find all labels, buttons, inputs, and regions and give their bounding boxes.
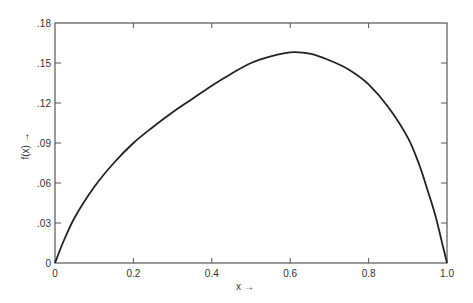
y-tick-label: .12 <box>37 98 51 109</box>
y-tick-label: 0 <box>45 258 51 269</box>
x-tick-label: 0 <box>52 268 58 279</box>
y-tick-label: .03 <box>37 218 51 229</box>
x-tick-label: 0.8 <box>362 268 376 279</box>
plot-frame <box>55 23 447 263</box>
y-tick-label: .06 <box>37 178 51 189</box>
x-tick-label: 0.6 <box>283 268 297 279</box>
x-axis-label: x → <box>236 281 254 292</box>
y-axis-label: f(x) → <box>20 132 31 159</box>
data-line-fx <box>55 52 447 263</box>
y-tick-label: .15 <box>37 58 51 69</box>
x-tick-label: 0.4 <box>205 268 219 279</box>
y-tick-label: .18 <box>37 18 51 29</box>
x-tick-label: 1.0 <box>440 268 454 279</box>
y-axis-ticks: 0.03.06.09.12.15.18 <box>37 18 447 269</box>
line-chart: 00.20.40.60.81.0 0.03.06.09.12.15.18 x →… <box>0 0 473 303</box>
x-tick-label: 0.2 <box>126 268 140 279</box>
y-tick-label: .09 <box>37 138 51 149</box>
